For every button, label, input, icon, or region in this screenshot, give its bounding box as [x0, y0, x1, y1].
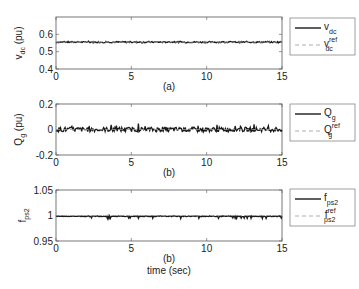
x-tick-label: 0: [53, 71, 59, 82]
legend: fps2frefps2: [290, 189, 355, 226]
figure: 0510150.40.50.6vdc (pu)(a)vdcvrefdc05101…: [0, 0, 359, 289]
y-tick-label: 0.95: [34, 236, 54, 247]
x-tick-label: 0: [53, 157, 59, 168]
x-tick-label: 15: [276, 71, 288, 82]
panel-caption: (b): [163, 253, 175, 264]
y-axis-label: fps2: [17, 208, 31, 222]
x-tick-label: 10: [201, 243, 213, 254]
y-tick-label: -0.2: [36, 150, 54, 161]
y-axis-label: Qg (pu): [13, 113, 27, 145]
y-tick-label: 0.5: [39, 46, 53, 57]
legend-entry: frefps2: [324, 207, 336, 224]
subplot-2: 051015-0.200.2Qg (pu)(b)QgQrefg: [13, 99, 355, 179]
y-tick-label: 0.6: [39, 29, 53, 40]
y-tick-label: 0.2: [39, 99, 53, 110]
y-tick-label: 0: [47, 124, 53, 135]
legend: QgQrefg: [290, 104, 355, 141]
x-tick-label: 10: [201, 157, 213, 168]
subplot-3: 0510150.9511.05fps2(b)fps2frefps2: [17, 185, 355, 265]
x-tick-label: 5: [129, 243, 135, 254]
legend: vdcvrefdc: [290, 18, 355, 55]
x-tick-label: 10: [201, 71, 213, 82]
x-tick-label: 15: [276, 243, 288, 254]
panel-caption: (a): [163, 81, 175, 92]
x-tick-label: 0: [53, 243, 59, 254]
y-tick-label: 0.4: [39, 64, 53, 75]
x-tick-label: 15: [276, 157, 288, 168]
y-axis-label: vdc (pu): [13, 27, 26, 60]
panel-caption: (b): [163, 167, 175, 178]
x-tick-label: 5: [129, 71, 135, 82]
y-tick-label: 1.05: [34, 185, 54, 196]
y-tick-label: 1: [47, 210, 53, 221]
x-tick-label: 5: [129, 157, 135, 168]
x-axis-label: time (sec): [147, 265, 191, 276]
subplot-1: 0510150.40.50.6vdc (pu)(a)vdcvrefdc: [13, 17, 355, 92]
